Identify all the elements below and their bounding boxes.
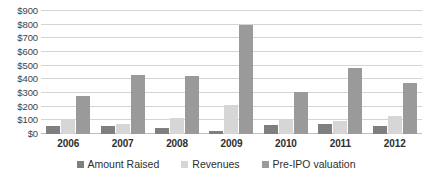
legend-swatch-icon [77, 161, 84, 168]
bar [116, 124, 130, 134]
bar-groups [41, 11, 422, 134]
legend-item[interactable]: Pre-IPO valuation [262, 159, 356, 170]
legend-item[interactable]: Amount Raised [77, 159, 160, 170]
bar [209, 131, 223, 134]
bar-group [313, 11, 367, 134]
x-axis-tick-label: 2010 [259, 136, 313, 152]
bar [224, 105, 238, 134]
y-axis-tick-label: $0 [28, 129, 38, 139]
bar [333, 121, 347, 134]
y-axis-tick-label: $300 [17, 88, 38, 98]
bar [155, 128, 169, 134]
legend-label: Pre-IPO valuation [273, 159, 356, 170]
bar [348, 68, 362, 134]
y-axis-tick-label: $700 [17, 34, 38, 44]
bar [294, 92, 308, 134]
bar [185, 76, 199, 134]
y-axis-tick-label: $400 [17, 75, 38, 85]
legend-label: Amount Raised [88, 159, 160, 170]
bar [403, 83, 417, 134]
bar [76, 96, 90, 134]
bar [131, 75, 145, 134]
bar-group [259, 11, 313, 134]
bar [373, 126, 387, 134]
y-axis-tick-label: $600 [17, 47, 38, 57]
x-axis-tick-label: 2006 [41, 136, 95, 152]
bar-group [95, 11, 149, 134]
y-axis: $0$100$200$300$400$500$600$700$800$900 [0, 11, 38, 134]
bar [46, 126, 60, 134]
bar [318, 124, 332, 134]
bar-group [41, 11, 95, 134]
legend-item[interactable]: Revenues [181, 159, 239, 170]
x-axis-tick-label: 2012 [368, 136, 422, 152]
x-axis-tick-label: 2009 [204, 136, 258, 152]
y-axis-tick-label: $200 [17, 102, 38, 112]
y-axis-tick-label: $500 [17, 61, 38, 71]
chart-legend: Amount RaisedRevenuesPre-IPO valuation [0, 156, 432, 172]
bar [239, 25, 253, 134]
y-axis-tick-label: $100 [17, 116, 38, 126]
bar-group [204, 11, 258, 134]
legend-swatch-icon [262, 161, 269, 168]
x-axis: 2006200720082009201020112012 [41, 136, 422, 152]
x-axis-tick-label: 2007 [95, 136, 149, 152]
bar [61, 120, 75, 134]
y-axis-tick-label: $800 [17, 20, 38, 30]
x-axis-tick-label: 2008 [150, 136, 204, 152]
bar-chart: $0$100$200$300$400$500$600$700$800$900 2… [0, 0, 432, 177]
bar [170, 118, 184, 134]
y-axis-tick-label: $900 [17, 6, 38, 16]
bar [101, 126, 115, 134]
legend-swatch-icon [181, 161, 188, 168]
x-axis-tick-label: 2011 [313, 136, 367, 152]
bar [264, 125, 278, 134]
bar [279, 120, 293, 134]
bar-group [150, 11, 204, 134]
legend-label: Revenues [192, 159, 239, 170]
bar [388, 116, 402, 134]
plot-area [41, 11, 422, 134]
bar-group [368, 11, 422, 134]
